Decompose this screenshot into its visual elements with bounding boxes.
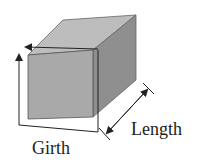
box-illustration bbox=[0, 0, 199, 166]
length-label: Length bbox=[131, 120, 182, 138]
length-tick-bottom bbox=[99, 128, 110, 140]
box-front-face bbox=[28, 50, 93, 119]
girth-label: Girth bbox=[32, 139, 70, 157]
